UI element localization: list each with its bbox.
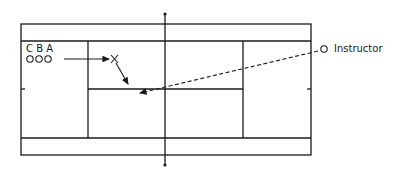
player-move-arrow xyxy=(116,63,128,84)
instructor-marker xyxy=(321,46,327,52)
player-labels: C B A xyxy=(26,43,53,54)
tennis-court-diagram: C B A Instructor xyxy=(0,0,401,174)
target-x-marker xyxy=(111,55,118,63)
court xyxy=(21,24,311,155)
instructor-label: Instructor xyxy=(334,43,383,54)
player-b-marker xyxy=(36,56,42,62)
instructor-feed-line xyxy=(140,51,318,93)
net-post-top xyxy=(163,12,166,15)
player-markers xyxy=(27,56,51,62)
net-post-bottom xyxy=(163,163,166,166)
player-a-marker xyxy=(45,56,51,62)
player-c-marker xyxy=(27,56,33,62)
